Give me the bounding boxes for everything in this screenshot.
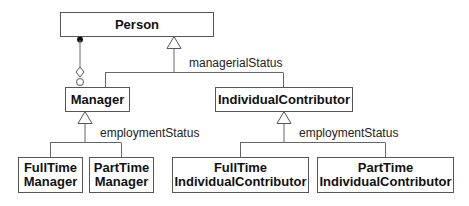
class-fulltime-ic-line1: FullTime — [214, 160, 267, 175]
class-fulltime-manager-line2: Manager — [24, 174, 77, 189]
class-individual-contributor-label: IndividualContributor — [218, 92, 350, 107]
generalization-person: managerialStatus — [105, 37, 284, 88]
generalization-manager: employmentStatus — [50, 112, 199, 158]
generalization-triangle-icon — [277, 112, 291, 124]
uml-class-diagram: Person managerialStatus Manager Individu… — [0, 0, 469, 206]
generalization-triangle-icon — [167, 37, 181, 49]
class-fulltime-individual-contributor: FullTime IndividualContributor — [173, 158, 309, 193]
class-person-label: Person — [115, 17, 159, 32]
class-parttime-ic-line2: IndividualContributor — [319, 174, 451, 189]
discriminator-managerial-status: managerialStatus — [189, 56, 282, 70]
class-manager: Manager — [66, 88, 130, 112]
hollow-circle-icon — [77, 79, 84, 86]
class-individual-contributor: IndividualContributor — [216, 88, 353, 112]
class-parttime-manager-line1: PartTime — [94, 160, 149, 175]
generalization-triangle-icon — [78, 112, 92, 124]
class-fulltime-ic-line2: IndividualContributor — [174, 174, 306, 189]
discriminator-employment-status-ic: employmentStatus — [299, 126, 398, 140]
class-person: Person — [61, 13, 214, 37]
class-fulltime-manager-line1: FullTime — [24, 160, 77, 175]
discriminator-employment-status-manager: employmentStatus — [100, 126, 199, 140]
aggregation-person-manager — [76, 37, 84, 86]
class-parttime-manager-line2: Manager — [95, 174, 148, 189]
class-fulltime-manager: FullTime Manager — [19, 158, 83, 193]
class-parttime-manager: PartTime Manager — [90, 158, 154, 193]
class-manager-label: Manager — [71, 92, 124, 107]
generalization-individual-contributor: employmentStatus — [240, 112, 398, 158]
aggregation-diamond-icon — [76, 67, 84, 77]
class-parttime-ic-line1: PartTime — [358, 160, 413, 175]
class-parttime-individual-contributor: PartTime IndividualContributor — [318, 158, 454, 193]
